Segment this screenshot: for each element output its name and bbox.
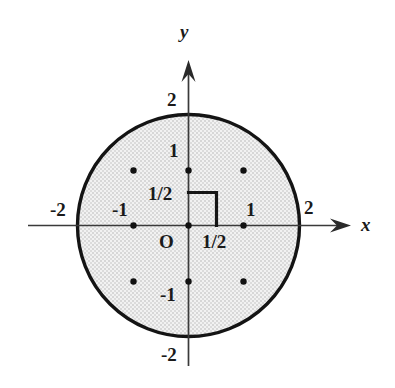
y-tick-label-neg2: -2 [161, 345, 177, 364]
origin-label: O [159, 232, 174, 251]
math-figure-circle-lattice: x y -2 -1 1 2 2 1 -1 -2 1/2 1/2 O [0, 0, 395, 388]
y-tick-label-pos2: 2 [167, 90, 177, 109]
lattice-point [240, 278, 246, 284]
lattice-point [185, 278, 191, 284]
x-axis-label: x [361, 215, 371, 234]
x-tick-label-pos1: 1 [246, 200, 256, 219]
lattice-point [130, 167, 136, 173]
y-tick-label-neg1: -1 [160, 285, 176, 304]
x-half-label: 1/2 [202, 232, 226, 251]
lattice-point [240, 167, 246, 173]
lattice-point [240, 222, 246, 228]
figure-canvas [0, 0, 395, 388]
y-half-label: 1/2 [148, 184, 172, 203]
y-tick-label-pos1: 1 [169, 141, 179, 160]
x-tick-label-neg2: -2 [50, 200, 66, 219]
lattice-point [185, 222, 191, 228]
lattice-point [185, 167, 191, 173]
x-tick-label-neg1: -1 [112, 200, 128, 219]
lattice-point [130, 278, 136, 284]
x-tick-label-pos2: 2 [304, 198, 314, 217]
lattice-point [130, 222, 136, 228]
y-axis-label: y [180, 22, 188, 41]
